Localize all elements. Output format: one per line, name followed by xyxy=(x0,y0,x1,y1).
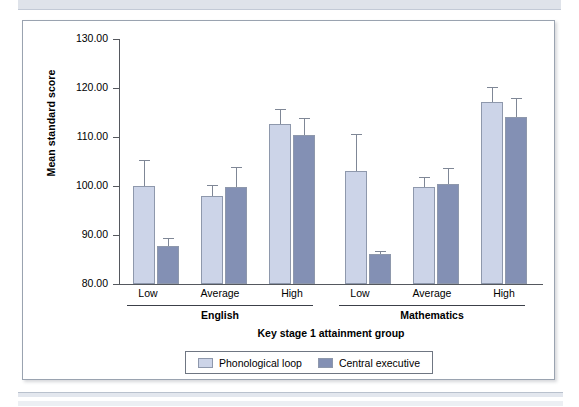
bar-english-low-central-executive xyxy=(157,246,179,284)
group-rule-english xyxy=(127,305,313,306)
error-cap-english-high-central-executive xyxy=(299,118,310,119)
y-axis-title: Mean standard score xyxy=(45,43,57,203)
y-axis-line xyxy=(119,39,120,284)
y-tick-100: 100.00 xyxy=(113,186,119,187)
page-top-band xyxy=(18,0,561,10)
bar-maths-high-phonological-loop xyxy=(481,102,503,284)
bar-maths-high-central-executive xyxy=(505,117,527,284)
y-tick-130: 130.00 xyxy=(113,39,119,40)
page-bottom-rule xyxy=(18,392,563,397)
error-bar-english-low-phonological-loop xyxy=(144,160,145,186)
error-cap-english-low-central-executive xyxy=(163,238,174,239)
error-bar-maths-average-central-executive xyxy=(448,168,449,184)
error-bar-english-low-central-executive xyxy=(168,238,169,246)
y-tick-90: 90.00 xyxy=(113,235,119,236)
legend-item-phonological-loop: Phonological loop xyxy=(198,357,302,369)
figure-page: Mean standard score 80.00 90.00 100.00 1… xyxy=(0,0,579,407)
bar-english-average-central-executive xyxy=(225,187,247,284)
error-bar-maths-average-phonological-loop xyxy=(424,177,425,188)
error-cap-maths-average-central-executive xyxy=(443,168,454,169)
error-cap-maths-high-central-executive xyxy=(511,98,522,99)
y-tick-label-90: 90.00 xyxy=(82,228,113,240)
legend-label-central-executive: Central executive xyxy=(339,357,420,369)
page-bottom-rule-secondary xyxy=(18,401,563,406)
cat-label-maths-average: Average xyxy=(399,287,465,299)
cat-label-maths-low: Low xyxy=(331,287,389,299)
cat-label-english-average: Average xyxy=(187,287,253,299)
bar-maths-low-central-executive xyxy=(369,254,391,284)
error-bar-english-average-central-executive xyxy=(236,167,237,187)
group-rule-mathematics xyxy=(339,305,525,306)
y-tick-110: 110.00 xyxy=(113,137,119,138)
error-bar-maths-high-central-executive xyxy=(516,98,517,118)
error-cap-maths-low-phonological-loop xyxy=(351,134,362,135)
bar-english-high-phonological-loop xyxy=(269,124,291,284)
error-cap-english-average-central-executive xyxy=(231,167,242,168)
cat-label-english-low: Low xyxy=(119,287,177,299)
error-cap-english-low-phonological-loop xyxy=(139,160,150,161)
chart-panel: Mean standard score 80.00 90.00 100.00 1… xyxy=(22,20,555,380)
bar-maths-average-central-executive xyxy=(437,184,459,284)
cat-label-maths-high: High xyxy=(475,287,533,299)
error-bar-maths-high-phonological-loop xyxy=(492,87,493,103)
error-bar-maths-low-phonological-loop xyxy=(356,134,357,171)
error-cap-maths-average-phonological-loop xyxy=(419,177,430,178)
bar-english-high-central-executive xyxy=(293,135,315,284)
bar-maths-low-phonological-loop xyxy=(345,171,367,284)
y-tick-120: 120.00 xyxy=(113,88,119,89)
error-bar-english-high-phonological-loop xyxy=(280,109,281,124)
y-tick-label-130: 130.00 xyxy=(76,32,113,44)
legend-item-central-executive: Central executive xyxy=(318,357,420,369)
x-axis-line xyxy=(119,284,543,285)
error-cap-maths-low-central-executive xyxy=(375,251,386,252)
group-label-mathematics: Mathematics xyxy=(339,309,525,321)
y-tick-label-80: 80.00 xyxy=(82,277,113,289)
legend-swatch-icon-central-executive xyxy=(318,358,333,368)
error-bar-english-average-phonological-loop xyxy=(212,185,213,196)
bar-english-average-phonological-loop xyxy=(201,196,223,284)
bar-english-low-phonological-loop xyxy=(133,186,155,284)
x-axis-title: Key stage 1 attainment group xyxy=(119,327,543,339)
error-cap-english-high-phonological-loop xyxy=(275,109,286,110)
cat-label-english-high: High xyxy=(263,287,321,299)
error-bar-english-high-central-executive xyxy=(304,118,305,135)
chart-legend: Phonological loop Central executive xyxy=(185,351,433,374)
bar-maths-average-phonological-loop xyxy=(413,187,435,284)
error-cap-maths-high-phonological-loop xyxy=(487,87,498,88)
plot-area: Mean standard score 80.00 90.00 100.00 1… xyxy=(23,21,554,379)
error-cap-english-average-phonological-loop xyxy=(207,185,218,186)
legend-swatch-icon-phonological-loop xyxy=(198,358,213,368)
y-tick-label-120: 120.00 xyxy=(76,81,113,93)
y-tick-label-100: 100.00 xyxy=(76,179,113,191)
y-tick-80: 80.00 xyxy=(113,284,119,285)
legend-label-phonological-loop: Phonological loop xyxy=(219,357,302,369)
y-tick-label-110: 110.00 xyxy=(77,130,113,142)
group-label-english: English xyxy=(127,309,313,321)
